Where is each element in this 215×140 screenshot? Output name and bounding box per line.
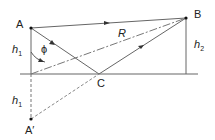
label-phi: ϕ bbox=[41, 44, 47, 55]
diagram-canvas bbox=[0, 0, 215, 140]
label-h1-upper: h1 bbox=[12, 44, 22, 57]
label-h2: h2 bbox=[194, 39, 204, 52]
h1-lower-sub: 1 bbox=[18, 101, 22, 108]
reflection-geometry-diagram: A B C A′ R ϕ h1 h1 h2 bbox=[0, 0, 215, 140]
point-A bbox=[29, 26, 32, 29]
image-ray-dashed bbox=[31, 74, 99, 119]
point-B bbox=[184, 16, 187, 19]
h1-upper-sub: 1 bbox=[18, 50, 22, 57]
label-A-prime: A′ bbox=[25, 125, 34, 136]
label-R: R bbox=[118, 28, 126, 39]
label-C: C bbox=[97, 78, 105, 89]
label-B: B bbox=[194, 9, 201, 20]
arrow-direct bbox=[104, 21, 110, 25]
label-A: A bbox=[16, 19, 23, 30]
h2-sub: 2 bbox=[200, 45, 204, 52]
label-h1-lower: h1 bbox=[12, 95, 22, 108]
point-A-prime bbox=[29, 117, 32, 120]
